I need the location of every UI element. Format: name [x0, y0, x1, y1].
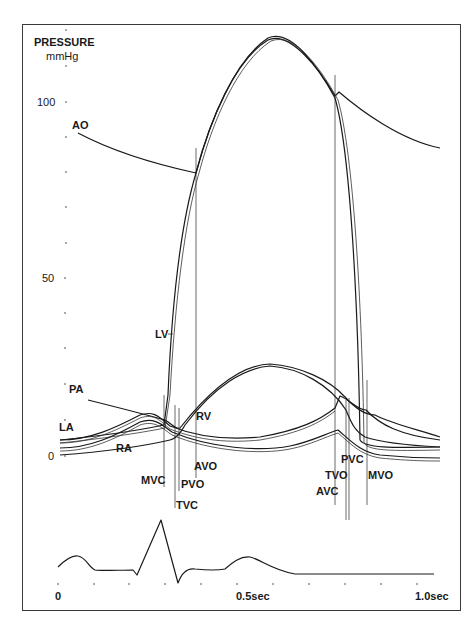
series-ecg	[58, 520, 434, 583]
label-lv: LV	[155, 328, 169, 340]
label-pvc: PVC	[341, 453, 364, 465]
series-lv	[60, 36, 440, 447]
label-mvc: MVC	[141, 474, 166, 486]
x-tick-0: 0	[55, 590, 61, 602]
label-ao: AO	[72, 119, 89, 131]
y-tick-100: 100	[37, 96, 55, 108]
label-avo: AVO	[194, 460, 217, 472]
label-pa: PA	[69, 383, 84, 395]
label-ra: RA	[116, 442, 132, 454]
x-tick-0-5: 0.5sec	[236, 590, 270, 602]
valve-event-lines	[164, 75, 367, 520]
label-mvo: MVO	[368, 469, 394, 481]
y-axis-title: PRESSURE	[34, 36, 95, 48]
y-axis-unit: mmHg	[46, 50, 78, 62]
x-axis-ticks	[58, 583, 417, 585]
series-lv-outer	[60, 39, 440, 450]
label-pvo: PVO	[181, 478, 205, 490]
series-ao	[78, 38, 440, 173]
label-tvo: TVO	[325, 469, 348, 481]
cardiac-cycle-chart: PRESSURE mmHg 100 50 0	[0, 0, 472, 627]
label-la: LA	[59, 421, 74, 433]
label-avc: AVC	[316, 485, 338, 497]
label-rv: RV	[196, 410, 212, 422]
y-tick-0: 0	[48, 450, 54, 462]
y-tick-50: 50	[42, 272, 54, 284]
label-tvc: TVC	[176, 499, 198, 511]
y-axis-ticks	[64, 30, 67, 456]
x-tick-1-0: 1.0sec	[415, 590, 449, 602]
